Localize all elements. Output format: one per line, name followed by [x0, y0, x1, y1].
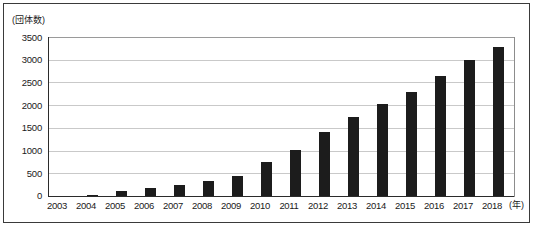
x-axis-tick-label: 2018 — [475, 201, 509, 211]
bar-2008 — [203, 181, 214, 196]
gridline-3000 — [49, 60, 515, 61]
y-axis-tick-label: 2000 — [4, 101, 42, 111]
y-axis-tick-label: 1500 — [4, 123, 42, 133]
bar-2009 — [232, 176, 243, 196]
plot-area — [48, 37, 515, 197]
bar-2012 — [319, 132, 330, 196]
bar-2015 — [406, 92, 417, 196]
bar-2017 — [464, 60, 475, 196]
y-axis-tick-label: 3500 — [4, 33, 42, 43]
y-axis-tick-label: 2500 — [4, 78, 42, 88]
bar-2018 — [493, 47, 504, 196]
bar-2013 — [348, 117, 359, 196]
bar-2004 — [87, 195, 98, 196]
bar-2014 — [377, 104, 388, 196]
y-axis-tick-label: 500 — [4, 169, 42, 179]
y-axis-unit-label: (団体数) — [12, 16, 45, 25]
y-axis-tick-label: 1000 — [4, 146, 42, 156]
bar-2010 — [261, 162, 272, 197]
plot-right-border — [514, 37, 515, 197]
x-axis-unit-label: (年) — [509, 201, 524, 210]
y-axis-tick-label: 3000 — [4, 55, 42, 65]
chart-frame: (団体数) 3500 3000 2500 2000 1500 1000 500 … — [3, 3, 530, 223]
gridline-3500 — [49, 37, 515, 38]
bar-2006 — [145, 188, 156, 196]
bar-2011 — [290, 150, 301, 196]
bar-2005 — [116, 191, 127, 196]
bar-2016 — [435, 76, 446, 196]
bar-2007 — [174, 185, 185, 196]
y-axis-tick-label: 0 — [4, 191, 42, 201]
